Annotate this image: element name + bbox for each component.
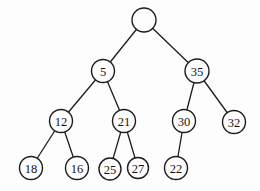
tree-node-label: 32 xyxy=(228,116,241,130)
tree-node-label: 22 xyxy=(170,162,183,176)
tree-node-18: 18 xyxy=(20,157,43,180)
tree-node-21: 21 xyxy=(113,110,136,133)
tree-node-root xyxy=(132,8,156,32)
tree-node-16: 16 xyxy=(66,157,89,180)
tree-node-12: 12 xyxy=(50,110,73,133)
tree-node-label: 5 xyxy=(100,65,106,79)
tree-node-label: 21 xyxy=(118,115,131,129)
tree-node-label: 35 xyxy=(191,65,204,79)
tree-node-27: 27 xyxy=(128,158,149,179)
tree-node-label: 27 xyxy=(132,162,145,176)
tree-node-25: 25 xyxy=(99,158,121,180)
tree-node-label: 18 xyxy=(25,162,38,176)
tree-node-label: 12 xyxy=(55,115,68,129)
tree-node-5: 5 xyxy=(92,60,115,83)
tree-node-35: 35 xyxy=(185,59,209,83)
tree-node-22: 22 xyxy=(165,157,188,180)
tree-node-circle xyxy=(132,8,156,32)
tree-node-label: 16 xyxy=(71,162,84,176)
tree-node-label: 25 xyxy=(104,163,117,177)
tree-node-30: 30 xyxy=(173,110,196,133)
binary-tree-diagram: 535122130321816252722 xyxy=(0,0,260,191)
tree-node-32: 32 xyxy=(223,111,246,134)
tree-node-label: 30 xyxy=(178,115,191,129)
binary-tree-canvas: 535122130321816252722 xyxy=(0,0,260,191)
